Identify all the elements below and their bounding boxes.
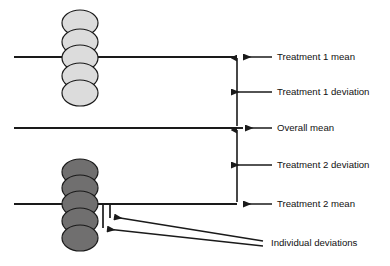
data-point	[62, 225, 98, 251]
treatment-2-mean-label: Treatment 2 mean	[277, 198, 355, 209]
treatment-2-point-group	[62, 159, 98, 251]
overall-mean-label: Overall mean	[277, 122, 334, 133]
anova-variance-diagram: Treatment 1 mean Treatment 1 deviation O…	[0, 0, 390, 266]
individual-deviation-ticks	[103, 204, 110, 228]
treatment-1-point-group	[62, 10, 98, 106]
treatment-1-mean-label: Treatment 1 mean	[277, 51, 355, 62]
treatment-1-deviation-label: Treatment 1 deviation	[277, 86, 369, 97]
data-point	[62, 80, 98, 106]
deviation-bracket	[231, 58, 243, 202]
treatment-2-deviation-label: Treatment 2 deviation	[277, 159, 369, 170]
individual-deviations-label: Individual deviations	[271, 237, 358, 248]
